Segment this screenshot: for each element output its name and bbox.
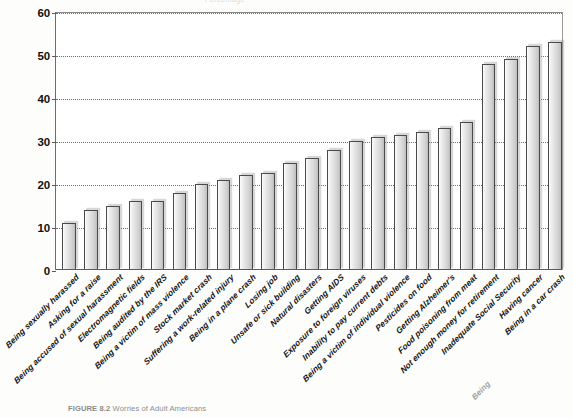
bar — [239, 175, 253, 270]
bar — [84, 210, 98, 270]
x-axis-labels: Being sexually harassedAsking for a rais… — [55, 272, 563, 392]
bar — [349, 141, 363, 270]
y-tick-label-10: 10 — [38, 222, 50, 234]
bar — [416, 132, 430, 270]
bar — [261, 173, 275, 270]
plot-inner: 0102030405060 — [56, 13, 562, 270]
bar — [151, 201, 165, 270]
y-tick-label-0: 0 — [44, 265, 50, 277]
bar — [217, 180, 231, 270]
bar — [327, 150, 341, 270]
x-axis-baseline — [56, 269, 562, 270]
bar — [460, 122, 474, 270]
bar — [504, 59, 518, 270]
bar — [195, 184, 209, 270]
chart-top-strip-text: Percentage — [205, 0, 573, 8]
figure-caption: FIGURE 8.2 Worries of Adult Americans — [68, 404, 206, 413]
bar — [438, 128, 452, 270]
figure-container: Percentage 0102030405060 Being sexually … — [0, 0, 573, 418]
bar — [526, 46, 540, 270]
bar — [394, 135, 408, 270]
bar — [305, 158, 319, 270]
bar — [482, 64, 496, 270]
plot-area: 0102030405060 — [55, 12, 563, 270]
bar — [129, 201, 143, 270]
bar-series — [56, 13, 562, 270]
bar — [283, 163, 297, 271]
bar — [173, 193, 187, 270]
y-tick-label-30: 30 — [38, 136, 50, 148]
bar — [62, 223, 76, 270]
y-tick-label-20: 20 — [38, 179, 50, 191]
y-tick-label-40: 40 — [38, 93, 50, 105]
figure-caption-number: FIGURE 8.2 — [68, 404, 110, 413]
bar — [371, 137, 385, 270]
bar — [106, 206, 120, 271]
y-tick-label-60: 60 — [38, 7, 50, 19]
bar — [548, 42, 562, 270]
figure-caption-text: Worries of Adult Americans — [113, 404, 207, 413]
y-tick-label-50: 50 — [38, 50, 50, 62]
